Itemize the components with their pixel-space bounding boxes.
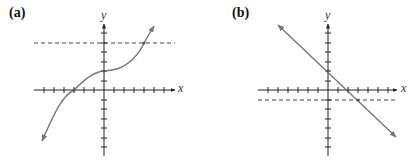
panel-b-graph bbox=[258, 24, 398, 156]
panel-b-y-intercept-point bbox=[327, 70, 330, 73]
panel-b-intersection-point bbox=[357, 99, 360, 102]
panel-b-line bbox=[278, 25, 396, 137]
panel-a-x-intercept-point bbox=[73, 89, 76, 92]
panel-a-intersection-point bbox=[143, 42, 146, 45]
panel-a-graph bbox=[34, 24, 175, 156]
panel-b-x-intercept-point bbox=[347, 89, 350, 92]
graphs-canvas bbox=[0, 0, 413, 167]
panel-a-y-intercept-point bbox=[103, 70, 106, 73]
